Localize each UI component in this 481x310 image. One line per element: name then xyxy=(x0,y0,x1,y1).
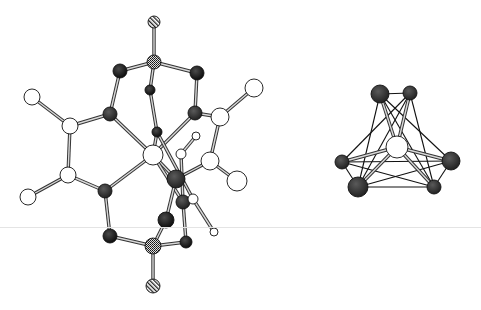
scan-line xyxy=(0,227,481,228)
atom-white xyxy=(62,118,78,134)
atom-white xyxy=(192,132,200,140)
atom-black xyxy=(145,85,155,95)
atom-white xyxy=(386,136,408,158)
edge-line xyxy=(358,94,380,187)
atom-hatched xyxy=(148,16,160,28)
atom-black xyxy=(113,64,127,78)
atom-grid xyxy=(145,238,161,254)
atom-darkgray xyxy=(348,177,368,197)
atom-white xyxy=(143,145,163,165)
atom-darkgray xyxy=(167,170,185,188)
atom-black xyxy=(180,236,192,248)
right-cluster-atoms xyxy=(335,85,460,197)
atom-darkgray xyxy=(403,86,417,100)
atom-darkgray xyxy=(371,85,389,103)
atom-white xyxy=(20,189,36,205)
edge-line xyxy=(342,161,451,162)
atom-white xyxy=(210,228,218,236)
atom-white xyxy=(60,167,76,183)
atom-white xyxy=(188,194,198,204)
atom-darkgray xyxy=(442,152,460,170)
atoms-layer xyxy=(20,16,460,293)
atom-darkgray xyxy=(188,106,202,120)
atom-hatched xyxy=(146,279,160,293)
atom-black xyxy=(158,212,174,228)
atom-darkgray xyxy=(98,184,112,198)
atom-darkgray xyxy=(335,155,349,169)
atom-grid xyxy=(147,55,161,69)
atom-white xyxy=(176,149,186,159)
atom-darkgray xyxy=(103,107,117,121)
left-complex xyxy=(28,22,254,286)
figure xyxy=(0,0,481,310)
atom-white xyxy=(211,108,229,126)
bonds-layer xyxy=(28,22,451,286)
molecule-diagram xyxy=(0,0,481,310)
left-complex-atoms xyxy=(20,16,263,293)
atom-white xyxy=(201,152,219,170)
atom-darkgray xyxy=(427,180,441,194)
atom-black xyxy=(190,66,204,80)
atom-black xyxy=(152,127,162,137)
atom-white xyxy=(227,171,247,191)
atom-black xyxy=(103,229,117,243)
atom-white xyxy=(24,89,40,105)
atom-white xyxy=(245,79,263,97)
